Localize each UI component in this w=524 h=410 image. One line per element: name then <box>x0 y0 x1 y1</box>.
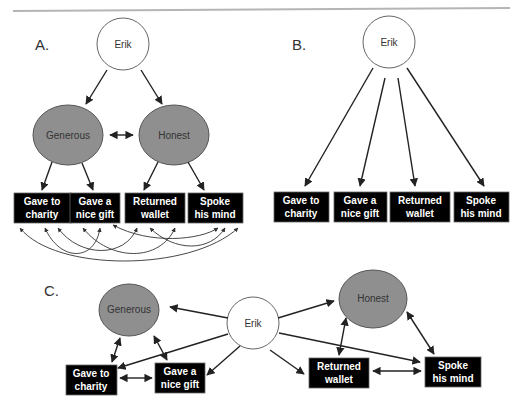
svg-text:his mind: his mind <box>194 209 235 220</box>
panel-c: C. Generous Honest Erik Gave to charity … <box>44 270 481 395</box>
svg-text:Gave to: Gave to <box>24 196 61 207</box>
svg-text:nice gift: nice gift <box>76 209 115 220</box>
panel-b: B. Erik Gave to charity Gave a nice gift… <box>274 16 509 222</box>
svg-text:charity: charity <box>26 209 59 220</box>
svg-text:his mind: his mind <box>460 208 501 219</box>
svg-text:wallet: wallet <box>405 208 434 219</box>
svg-text:Returned: Returned <box>398 195 442 206</box>
svg-text:Spoke: Spoke <box>438 360 468 371</box>
svg-text:Returned: Returned <box>133 196 177 207</box>
svg-text:his mind: his mind <box>432 373 473 384</box>
erik-label: Erik <box>114 39 132 50</box>
svg-text:charity: charity <box>75 381 108 392</box>
svg-text:Honest: Honest <box>357 293 389 304</box>
svg-text:Gave a: Gave a <box>79 196 112 207</box>
svg-text:Returned: Returned <box>317 361 361 372</box>
svg-text:nice gift: nice gift <box>341 208 380 219</box>
svg-text:wallet: wallet <box>140 209 169 220</box>
panel-a: A. Erik Generous Honest Gave to charity … <box>14 18 243 261</box>
svg-text:Spoke: Spoke <box>466 195 496 206</box>
svg-text:charity: charity <box>285 208 318 219</box>
svg-text:Erik: Erik <box>380 37 398 48</box>
svg-text:Gave to: Gave to <box>73 368 110 379</box>
svg-text:nice gift: nice gift <box>161 379 200 390</box>
svg-text:Gave a: Gave a <box>344 195 377 206</box>
honest-label: Honest <box>158 130 190 141</box>
top-rule <box>13 8 510 11</box>
svg-text:Erik: Erik <box>244 318 262 329</box>
svg-text:Gave to: Gave to <box>283 195 320 206</box>
svg-text:Gave a: Gave a <box>164 366 197 377</box>
generous-label: Generous <box>46 130 90 141</box>
svg-text:Generous: Generous <box>107 304 151 315</box>
svg-text:wallet: wallet <box>324 374 353 385</box>
diagram-canvas: A. Erik Generous Honest Gave to charity … <box>0 0 524 410</box>
panel-c-label: C. <box>44 282 59 299</box>
panel-a-label: A. <box>35 36 49 53</box>
svg-text:Spoke: Spoke <box>200 196 230 207</box>
panel-b-label: B. <box>292 36 306 53</box>
